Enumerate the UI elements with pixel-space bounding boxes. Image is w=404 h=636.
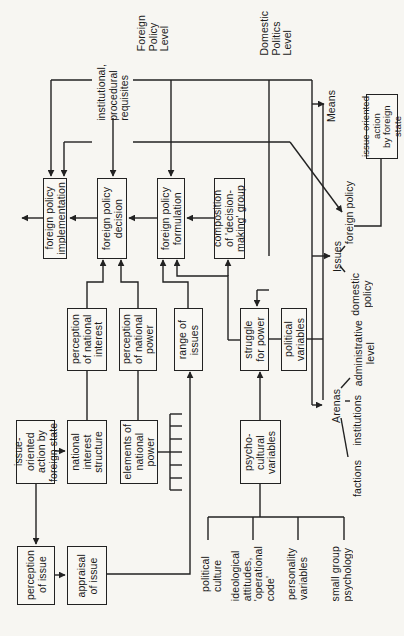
domestic-politics-level-label: Domestic Politics Level bbox=[256, 0, 296, 66]
struggle-for-power-text: struggle for power bbox=[243, 317, 266, 362]
perception-national-interest-text: perception of national interest bbox=[70, 314, 105, 364]
foreign-policy-implementation-box: foreign policy implementation bbox=[43, 178, 67, 259]
arenas-text: Arenas bbox=[331, 389, 343, 423]
means-label: Means bbox=[325, 88, 339, 124]
small-group-psychology-text: small group psychology bbox=[330, 546, 353, 601]
issues-domestic-policy-label: domestic policy bbox=[348, 270, 374, 318]
struggle-for-power-box: struggle for power bbox=[240, 308, 269, 371]
foreign-policy-decision-diagram: Foreign Policy Level Domestic Politics L… bbox=[0, 0, 404, 636]
issues-domestic-policy-text: domestic policy bbox=[350, 273, 373, 316]
foreign-policy-formulation-box: foreign policy formulation bbox=[157, 178, 185, 259]
perception-of-issue-text: perception of issue bbox=[25, 550, 48, 600]
arenas-administrative-level-text: administrative level bbox=[353, 320, 376, 386]
perception-of-issue-box: perception of issue bbox=[17, 546, 55, 605]
ideological-attitudes-label: ideological attitudes, 'operational code… bbox=[230, 542, 278, 606]
means-text: Means bbox=[326, 90, 338, 122]
small-group-psychology-label: small group psychology bbox=[330, 542, 356, 606]
national-interest-structure-box: national interest structure bbox=[67, 420, 107, 484]
range-of-issues-text: range of issues bbox=[177, 320, 200, 359]
issues-foreign-policy-text: foreign policy bbox=[344, 181, 356, 244]
issues-label: Issues bbox=[331, 242, 345, 270]
elements-national-power-box: elements of national power bbox=[120, 420, 158, 484]
issue-oriented-action-input-box: issue-oriented action by foreign state bbox=[16, 420, 55, 484]
appraisal-of-issue-box: appraisal of issue bbox=[67, 546, 107, 605]
political-culture-label: political culture bbox=[200, 542, 226, 606]
arenas-administrative-level-label: administrative level bbox=[350, 318, 378, 388]
perception-national-power-text: perception of national power bbox=[121, 314, 156, 364]
issue-oriented-action-input-text: issue-oriented action by foreign state bbox=[13, 421, 59, 483]
personality-variables-text: personality variables bbox=[286, 548, 309, 600]
arenas-factions-text: factions bbox=[352, 460, 364, 497]
elements-national-power-text: elements of national power bbox=[122, 424, 157, 479]
foreign-policy-decision-text: foreign policy decision bbox=[101, 187, 124, 250]
foreign-policy-formulation-text: foreign policy formulation bbox=[160, 187, 183, 250]
ideological-attitudes-text: ideological attitudes, 'operational code… bbox=[230, 546, 276, 601]
psycho-cultural-variables-text: psycho- cultural variables bbox=[243, 431, 278, 474]
domestic-politics-level-text: Domestic Politics Level bbox=[259, 11, 294, 56]
psycho-cultural-variables-box: psycho- cultural variables bbox=[240, 420, 281, 484]
perception-national-interest-box: perception of national interest bbox=[67, 308, 107, 371]
personality-variables-label: personality variables bbox=[286, 542, 312, 606]
arenas-institutions-text: institutions bbox=[352, 395, 364, 446]
arenas-factions-label: factions bbox=[350, 455, 366, 501]
foreign-policy-implementation-text: foreign policy implementation bbox=[44, 182, 67, 255]
national-interest-structure-text: national interest structure bbox=[70, 431, 105, 473]
foreign-policy-decision-box: foreign policy decision bbox=[97, 178, 127, 259]
appraisal-of-issue-text: appraisal of issue bbox=[76, 554, 99, 598]
arenas-label: Arenas bbox=[330, 388, 344, 424]
arenas-institutions-label: institutions bbox=[350, 390, 366, 450]
political-variables-box: political variables bbox=[281, 308, 307, 371]
political-variables-text: political variables bbox=[283, 318, 306, 361]
composition-decision-making-group-text: composition of 'decision- making' group bbox=[212, 185, 247, 252]
perception-national-power-box: perception of national power bbox=[119, 308, 157, 371]
issues-foreign-policy-label: foreign policy bbox=[343, 180, 357, 246]
institutional-requisites-text: institutional, procedural requisites bbox=[96, 64, 131, 121]
range-of-issues-box: range of issues bbox=[174, 308, 203, 371]
political-culture-text: political culture bbox=[200, 556, 223, 592]
foreign-policy-level-label: Foreign Policy Level bbox=[133, 0, 173, 66]
foreign-policy-level-text: Foreign Policy Level bbox=[136, 15, 171, 51]
issue-oriented-action-output-box: issue-oriented action by foreign state bbox=[366, 94, 398, 159]
institutional-requisites-label: institutional, procedural requisites bbox=[93, 62, 133, 122]
issue-oriented-action-output-text: issue-oriented action by foreign state bbox=[361, 95, 403, 158]
composition-decision-making-group-box: composition of 'decision- making' group bbox=[214, 178, 245, 259]
